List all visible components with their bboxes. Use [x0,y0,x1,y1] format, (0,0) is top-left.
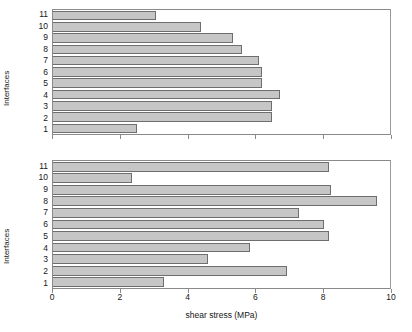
bar-interface-10 [53,22,201,32]
y-tick-label: 9 [22,183,48,195]
bar-interface-7 [53,56,259,66]
chart-panel-bottom: Interfaces 1110987654321 0246810 shear s… [0,152,412,332]
y-tick-label: 2 [22,112,48,123]
y-tick-label: 8 [22,195,48,207]
y-tick-label: 3 [22,254,48,266]
bar-interface-5 [53,231,329,241]
bar-interface-10 [53,173,132,183]
bar-interface-6 [53,220,324,230]
bar-interface-3 [53,101,272,111]
x-tick-label: 10 [386,293,395,302]
bar-row [53,10,390,21]
plot-area-bottom [52,160,391,289]
figure-two-bar-charts: Interfaces 1110987654321 Interfaces 1110… [0,0,412,332]
x-tick-mark [323,135,324,139]
x-tick-label: 4 [185,293,190,302]
bar-row [53,207,390,219]
y-tick-label: 10 [22,20,48,31]
y-tick-label: 4 [22,89,48,100]
y-tick-label: 11 [22,9,48,20]
y-tick-label: 1 [22,277,48,289]
y-tick-label: 6 [22,219,48,231]
y-tick-label: 8 [22,43,48,54]
bar-row [53,253,390,265]
bar-row [53,265,390,277]
x-tick-mark [120,135,121,139]
x-tick-mark [52,135,53,139]
y-tick-label: 5 [22,230,48,242]
y-axis-title-top: Interfaces [2,71,11,106]
bar-row [53,89,390,100]
bar-row [53,161,390,173]
x-tick-mark [255,135,256,139]
y-tick-label: 7 [22,207,48,219]
x-axis-ticks-top [52,135,391,139]
bar-interface-9 [53,185,331,195]
x-axis-title-bottom: shear stress (MPa) [52,310,391,320]
y-axis-tick-labels-top: 1110987654321 [22,9,48,135]
y-tick-label: 7 [22,55,48,66]
y-tick-label: 5 [22,78,48,89]
bar-series-top [53,10,390,134]
bar-interface-3 [53,254,208,264]
x-tick-mark [391,135,392,139]
bar-row [53,55,390,66]
bar-row [53,219,390,231]
y-axis-tick-labels-bottom: 1110987654321 [22,160,48,289]
bar-interface-7 [53,208,299,218]
bar-row [53,230,390,242]
chart-panel-top: Interfaces 1110987654321 [0,0,412,152]
x-tick-label: 2 [117,293,122,302]
y-tick-label: 4 [22,242,48,254]
bar-interface-4 [53,243,250,253]
plot-area-top [52,9,391,135]
x-tick-label: 8 [321,293,326,302]
bar-interface-4 [53,90,280,100]
bar-row [53,66,390,77]
bar-row [53,44,390,55]
y-tick-label: 3 [22,101,48,112]
x-tick-label: 6 [253,293,258,302]
x-tick-mark [188,135,189,139]
bar-series-bottom [53,161,390,288]
bar-interface-8 [53,45,242,55]
y-tick-label: 6 [22,66,48,77]
bar-row [53,100,390,111]
bar-interface-1 [53,277,164,287]
bar-interface-11 [53,11,156,21]
bar-interface-1 [53,124,137,134]
bar-row [53,33,390,44]
bar-row [53,276,390,288]
y-axis-title-bottom: Interfaces [2,229,11,264]
x-tick-label: 0 [50,293,55,302]
y-tick-label: 9 [22,32,48,43]
bar-interface-8 [53,196,377,206]
bar-row [53,21,390,32]
bar-interface-2 [53,266,287,276]
y-tick-label: 2 [22,265,48,277]
bar-row [53,196,390,208]
bar-interface-11 [53,162,329,172]
bar-row [53,173,390,185]
bar-row [53,78,390,89]
bar-interface-9 [53,33,233,43]
bar-interface-5 [53,78,262,88]
bar-row [53,184,390,196]
bar-row [53,123,390,134]
bar-row [53,111,390,122]
bar-interface-6 [53,67,262,77]
x-axis-bottom: 0246810 [52,289,391,306]
bar-interface-2 [53,112,272,122]
y-tick-label: 1 [22,124,48,135]
y-tick-label: 11 [22,160,48,172]
y-tick-label: 10 [22,172,48,184]
bar-row [53,242,390,254]
